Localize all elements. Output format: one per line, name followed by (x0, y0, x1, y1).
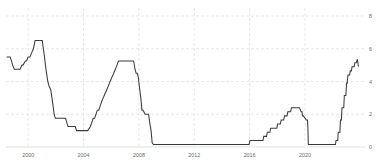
x-tick-label-2000: 2000 (22, 152, 34, 158)
y-tick-label-2: 2 (369, 111, 372, 117)
x-tick-label-2016: 2016 (244, 152, 256, 158)
x-tick-label-2008: 2008 (133, 152, 145, 158)
series-line-0 (7, 41, 359, 145)
x-tick-label-2012: 2012 (188, 152, 200, 158)
y-tick-label-0: 0 (369, 144, 372, 150)
chart-container: 02468 200020042008201220162020 (0, 0, 389, 167)
y-tick-label-6: 6 (369, 46, 372, 52)
line-chart: 02468 200020042008201220162020 (0, 0, 389, 167)
y-tick-label-8: 8 (369, 13, 372, 19)
series-lines (7, 41, 359, 145)
horizontal-gridlines (6, 16, 365, 147)
x-axis-tick-labels: 200020042008201220162020 (22, 152, 311, 158)
x-tick-label-2020: 2020 (299, 152, 311, 158)
y-tick-label-4: 4 (369, 79, 372, 85)
x-tick-label-2004: 2004 (78, 152, 90, 158)
y-axis-tick-labels: 02468 (369, 13, 372, 150)
